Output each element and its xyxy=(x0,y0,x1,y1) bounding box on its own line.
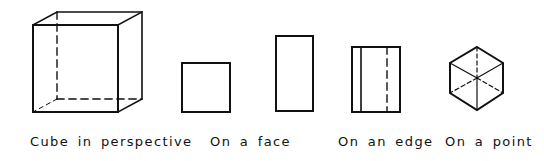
label-on-a-point: On a point xyxy=(445,134,533,149)
label-on-a-face: On a face xyxy=(210,134,291,149)
cube-on-point-figure xyxy=(450,47,503,110)
cube-on-face-figure xyxy=(182,63,230,112)
label-cube-in-perspective: Cube in perspective xyxy=(30,134,192,149)
cube-perspective-figure xyxy=(33,12,142,112)
label-on-an-edge: On an edge xyxy=(338,134,433,149)
cube-on-edge-figure xyxy=(352,47,400,112)
cube-tall-rectangle-figure xyxy=(276,36,313,111)
